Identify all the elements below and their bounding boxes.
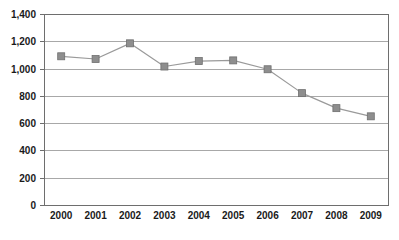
x-axis-tick-label: 2006 bbox=[256, 210, 279, 221]
x-axis-tick-label: 2003 bbox=[153, 210, 176, 221]
data-point-marker: 2008: 710 bbox=[333, 105, 340, 112]
x-axis-tick-label: 2009 bbox=[360, 210, 383, 221]
data-point-marker: 2009: 650 bbox=[367, 113, 374, 120]
data-point-marker: 2000: 1090 bbox=[58, 53, 65, 60]
data-point-marker: 2004: 1055 bbox=[195, 58, 202, 65]
data-point-marker: 2002: 1185 bbox=[127, 40, 134, 47]
y-axis-tick-label: 600 bbox=[19, 118, 36, 129]
data-point-marker: 2007: 820 bbox=[299, 90, 306, 97]
y-axis-tick-label: 200 bbox=[19, 173, 36, 184]
x-axis-tick-label: 2005 bbox=[222, 210, 245, 221]
y-axis-tick-label: 1,400 bbox=[11, 9, 36, 20]
x-axis-tick-label: 2002 bbox=[119, 210, 142, 221]
data-point-marker: 2003: 1015 bbox=[161, 63, 168, 70]
data-point-marker: 2006: 995 bbox=[264, 66, 271, 73]
chart-background bbox=[0, 0, 399, 240]
line-chart: 02004006008001,0001,2001,400 20002001200… bbox=[0, 0, 399, 240]
y-axis-tick-label: 0 bbox=[30, 200, 36, 211]
x-axis-tick-label: 2001 bbox=[84, 210, 107, 221]
data-point-marker: 2005: 1060 bbox=[230, 57, 237, 64]
y-axis-tick-label: 1,000 bbox=[11, 64, 36, 75]
y-axis-tick-label: 1,200 bbox=[11, 36, 36, 47]
chart-canvas: 02004006008001,0001,2001,400 20002001200… bbox=[0, 0, 399, 240]
y-axis-tick-label: 800 bbox=[19, 91, 36, 102]
data-point-marker: 2001: 1070 bbox=[92, 56, 99, 63]
x-axis-tick-label: 2004 bbox=[188, 210, 211, 221]
x-axis-tick-label: 2008 bbox=[325, 210, 348, 221]
x-axis-tick-label: 2000 bbox=[50, 210, 73, 221]
x-axis-tick-label: 2007 bbox=[291, 210, 314, 221]
y-axis-tick-label: 400 bbox=[19, 145, 36, 156]
